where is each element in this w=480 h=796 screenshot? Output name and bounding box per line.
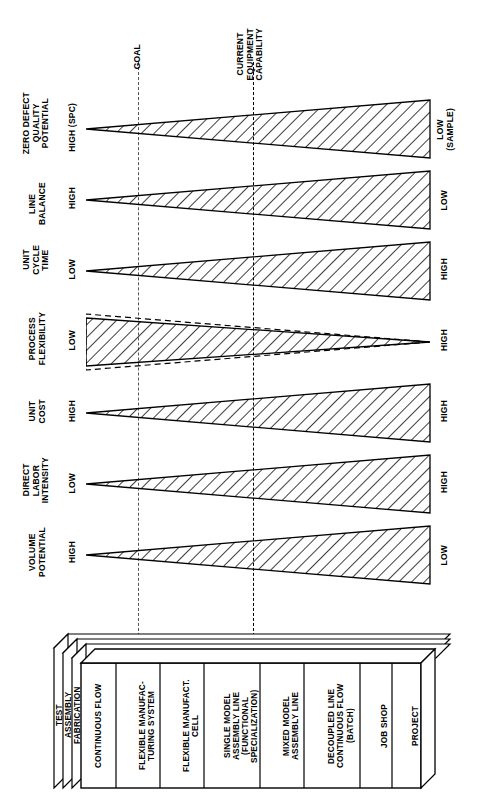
criterion-left-value-direct-labor-intensity: LOW	[68, 473, 78, 493]
criterion-left-value-unit-cost: HIGH	[68, 400, 78, 422]
wedge-zero-defect-quality-potential	[86, 99, 432, 159]
criterion-left-value-process-flexibility: LOW	[68, 330, 78, 350]
process-label-continuous-flow[interactable]: CONTINUOUS FLOW	[82, 665, 116, 787]
criterion-left-value-line-balance: HIGH	[68, 187, 78, 209]
wedge-volume-potential	[86, 525, 432, 585]
wedge-unit-cost	[86, 383, 432, 443]
process-label-flexible-manufacturing-system[interactable]: FLEXIBLE MANUFAC- TURING SYSTEM	[125, 665, 169, 787]
criterion-left-value-volume-potential: HIGH	[68, 541, 78, 563]
criterion-title-process-flexibility: PROCESS FLEXIBILITY	[28, 312, 47, 365]
criterion-title-direct-labor-intensity: DIRECT LABOR INTENSITY	[22, 457, 51, 503]
criterion-left-value-unit-cycle-time: LOW	[68, 259, 78, 279]
criterion-title-line-balance: LINE BALANCE	[28, 182, 47, 225]
criterion-right-value-unit-cost: HIGH	[440, 400, 450, 422]
criterion-right-value-volume-potential: LOW	[440, 545, 450, 565]
wedge-direct-labor-intensity	[86, 454, 432, 514]
criterion-right-value-process-flexibility: HIGH	[440, 329, 450, 351]
diagram-canvas: GOAL CURRENT EQUIPMENT CAPABILITY ZERO D…	[0, 0, 480, 796]
process-label-single-model-assembly-line[interactable]: SINGLE MODEL ASSEMBLY LINE (FUNCTIONAL S…	[213, 665, 269, 787]
criterion-right-value-direct-labor-intensity: HIGH	[440, 471, 450, 493]
reference-line-goal-label: GOAL	[133, 44, 143, 69]
wedge-line-balance	[86, 170, 432, 230]
process-label-flexible-manufacturing-cell[interactable]: FLEXIBLE MANUFACT. CELL	[169, 665, 213, 787]
process-label-project[interactable]: PROJECT	[401, 665, 431, 787]
criterion-right-value-unit-cycle-time: HIGH	[440, 258, 450, 280]
criterion-title-zero-defect-quality-potential: ZERO DEFECT QUALITY POTENTIAL	[22, 92, 51, 154]
process-label-mixed-model-assembly-line[interactable]: MIXED MODEL ASSEMBLY LINE	[269, 665, 313, 787]
wedge-unit-cycle-time	[86, 241, 432, 301]
wedge-process-flexibility	[86, 312, 432, 372]
criterion-title-unit-cost: UNIT COST	[28, 399, 47, 423]
process-label-decoupled-line-continuous-flow-batch[interactable]: DECOUPLED LINE CONTINUOUS FLOW (BATCH)	[313, 665, 369, 787]
criterion-right-value-zero-defect-quality-potential: LOW (SAMPLE)	[436, 108, 455, 151]
reference-line-current-equipment-capability-label: CURRENT EQUIPMENT CAPABILITY	[236, 28, 265, 80]
process-label-job-shop[interactable]: JOB SHOP	[369, 665, 401, 787]
criterion-title-volume-potential: VOLUME POTENTIAL	[28, 527, 47, 577]
criterion-title-unit-cycle-time: UNIT CYCLE TIME	[22, 245, 51, 275]
criterion-right-value-line-balance: LOW	[440, 190, 450, 210]
criterion-left-value-zero-defect-quality-potential: HIGH (SPC)	[68, 103, 78, 152]
